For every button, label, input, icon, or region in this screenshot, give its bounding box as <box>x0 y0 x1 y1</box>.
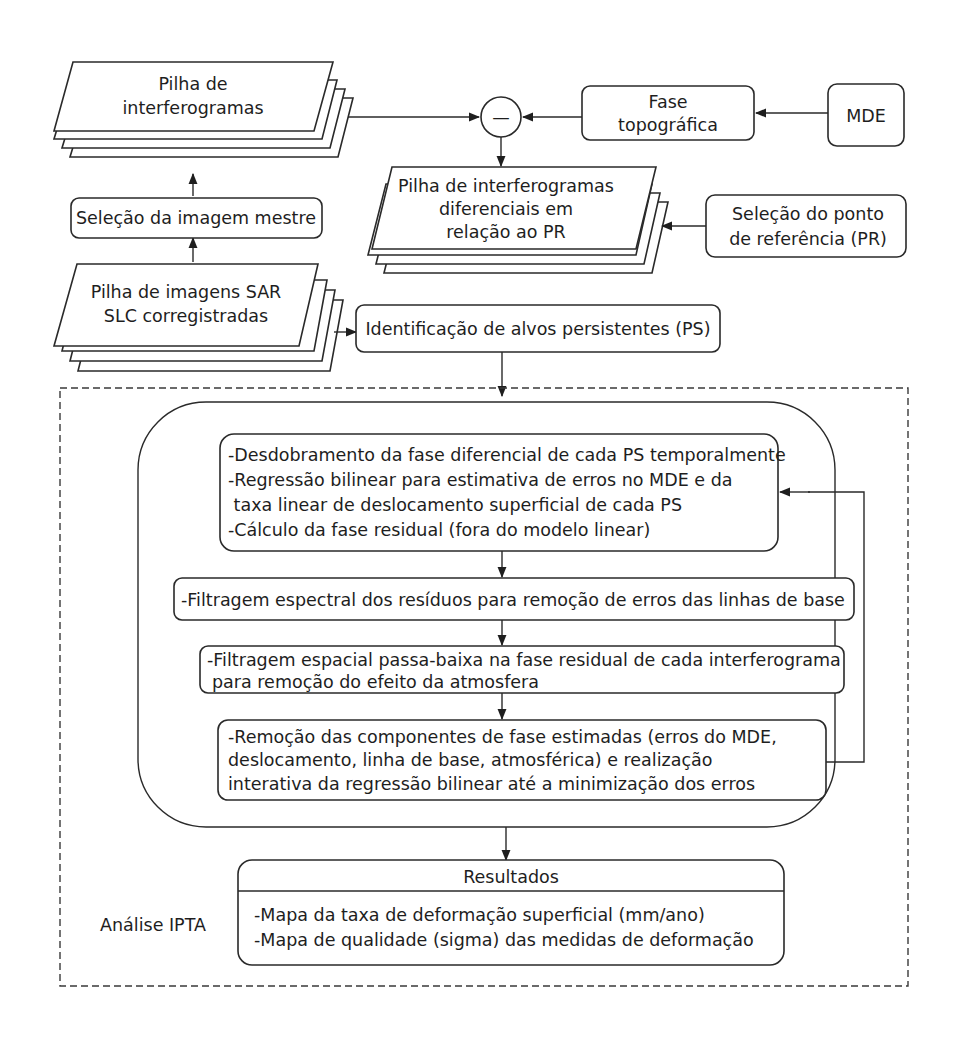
master-selection-label: Seleção da imagem mestre <box>76 208 316 228</box>
topographic-phase-line-2: topográfica <box>618 115 718 135</box>
ps-identification-box: Identificação de alvos persistentes (PS) <box>356 305 720 352</box>
minus-icon: — <box>492 107 510 127</box>
results-title: Resultados <box>463 867 559 887</box>
sar-stack-line-2: SLC corregistradas <box>104 306 268 326</box>
step-spectral-filter-box: -Filtragem espectral dos resíduos para r… <box>174 578 854 620</box>
step-removal-line-2: deslocamento, linha de base, atmosférica… <box>228 750 712 770</box>
step-unwrapping-line-1: -Desdobramento da fase diferencial de ca… <box>228 445 786 465</box>
step-unwrapping-line-4: -Cálculo da fase residual (fora do model… <box>228 520 650 540</box>
topographic-phase-box: Fase topográfica <box>582 86 754 140</box>
sar-image-stack: Pilha de imagens SAR SLC corregistradas <box>54 264 343 371</box>
step-spatial-filter-line-2: para remoção do efeito da atmosfera <box>212 672 539 692</box>
reference-point-line-1: Seleção do ponto <box>732 204 884 224</box>
dem-label: MDE <box>846 106 886 126</box>
step-removal-line-1: -Remoção das componentes de fase estimad… <box>228 727 777 747</box>
interferogram-stack-line-1: Pilha de <box>158 74 227 94</box>
step-removal-line-3: interativa da regressão bilinear até a m… <box>228 774 755 794</box>
diff-stack-line-1: Pilha de interferogramas <box>398 176 614 196</box>
diff-stack-line-3: relação ao PR <box>446 222 565 242</box>
step-removal-box: -Remoção das componentes de fase estimad… <box>218 720 826 800</box>
step-unwrapping-line-2: -Regressão bilinear para estimativa de e… <box>228 470 732 490</box>
step-spectral-filter-line-1: -Filtragem espectral dos resíduos para r… <box>181 590 845 610</box>
ipta-group-label: Análise IPTA <box>100 915 206 935</box>
reference-point-line-2: de referência (PR) <box>729 229 887 249</box>
results-line-1: -Mapa da taxa de deformação superficial … <box>254 905 705 925</box>
step-unwrapping-box: -Desdobramento da fase diferencial de ca… <box>220 434 786 551</box>
interferogram-stack-line-2: interferogramas <box>122 98 263 118</box>
subtract-operator: — <box>481 97 521 137</box>
topographic-phase-line-1: Fase <box>648 92 687 112</box>
master-selection-box: Seleção da imagem mestre <box>71 198 322 238</box>
step-spatial-filter-line-1: -Filtragem espacial passa-baixa na fase … <box>207 650 841 670</box>
ps-identification-label: Identificação de alvos persistentes (PS) <box>365 319 710 339</box>
step-spatial-filter-box: -Filtragem espacial passa-baixa na fase … <box>200 646 844 693</box>
dem-box: MDE <box>828 84 904 146</box>
differential-interferogram-stack: Pilha de interferogramas diferenciais em… <box>368 167 668 273</box>
ipta-flowchart: Pilha de interferogramas Seleção da imag… <box>0 0 956 1037</box>
step-unwrapping-line-3: taxa linear de deslocamento superficial … <box>228 495 682 515</box>
diff-stack-line-2: diferenciais em <box>439 199 573 219</box>
sar-stack-line-1: Pilha de imagens SAR <box>91 282 282 302</box>
results-line-2: -Mapa de qualidade (sigma) das medidas d… <box>254 930 754 950</box>
interferogram-stack: Pilha de interferogramas <box>54 62 353 157</box>
reference-point-box: Seleção do ponto de referência (PR) <box>706 195 906 257</box>
results-box: Resultados -Mapa da taxa de deformação s… <box>238 860 784 965</box>
